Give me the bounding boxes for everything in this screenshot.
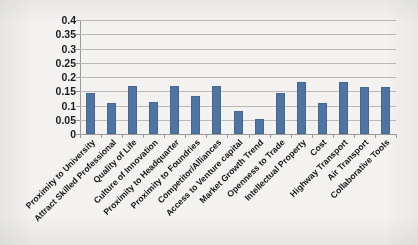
x-tick-mark bbox=[164, 134, 165, 138]
y-axis-labels: 00.050.10.150.20.250.30.350.4 bbox=[40, 20, 76, 134]
x-tick-mark bbox=[333, 134, 334, 138]
bar bbox=[339, 82, 348, 134]
x-tick-mark bbox=[354, 134, 355, 138]
bars-layer bbox=[80, 20, 396, 134]
y-tick-mark bbox=[76, 34, 80, 35]
gridline-0 bbox=[80, 134, 396, 135]
y-tick-label: 0.4 bbox=[40, 15, 76, 26]
y-tick-label: 0.3 bbox=[40, 43, 76, 54]
bar bbox=[297, 82, 306, 134]
bar bbox=[191, 96, 200, 134]
x-axis-labels: Proximity to UniversityAttract Skilled P… bbox=[0, 138, 418, 245]
x-tick-mark bbox=[270, 134, 271, 138]
y-tick-label: 0.25 bbox=[40, 58, 76, 69]
y-tick-mark bbox=[76, 91, 80, 92]
x-tick-mark bbox=[206, 134, 207, 138]
x-tick-mark bbox=[185, 134, 186, 138]
chart-screenshot: 00.050.10.150.20.250.30.350.4 Proximity … bbox=[0, 0, 418, 245]
x-tick-mark bbox=[101, 134, 102, 138]
x-tick-mark bbox=[375, 134, 376, 138]
x-tick-mark bbox=[80, 134, 81, 138]
bar bbox=[234, 111, 243, 134]
y-tick-mark bbox=[76, 120, 80, 121]
x-tick-mark bbox=[143, 134, 144, 138]
bar bbox=[107, 103, 116, 134]
y-tick-label: 0.05 bbox=[40, 115, 76, 126]
y-tick-label: 0.2 bbox=[40, 72, 76, 83]
bar bbox=[255, 119, 264, 134]
y-tick-mark bbox=[76, 49, 80, 50]
x-tick-mark bbox=[312, 134, 313, 138]
x-tick-mark bbox=[249, 134, 250, 138]
bar bbox=[149, 102, 158, 134]
bar bbox=[276, 93, 285, 134]
bar bbox=[381, 87, 390, 134]
bar bbox=[318, 103, 327, 134]
bar bbox=[212, 86, 221, 134]
x-tick-mark bbox=[396, 134, 397, 138]
y-tick-label: 0.35 bbox=[40, 29, 76, 40]
x-tick-mark bbox=[227, 134, 228, 138]
bar bbox=[128, 86, 137, 134]
bar bbox=[86, 93, 95, 134]
x-tick-mark bbox=[122, 134, 123, 138]
y-tick-mark bbox=[76, 106, 80, 107]
y-tick-mark bbox=[76, 63, 80, 64]
y-tick-label: 0.1 bbox=[40, 100, 76, 111]
x-tick-mark bbox=[291, 134, 292, 138]
bar bbox=[170, 86, 179, 134]
y-tick-mark bbox=[76, 20, 80, 21]
y-tick-label: 0.15 bbox=[40, 86, 76, 97]
bar bbox=[360, 87, 369, 134]
y-tick-mark bbox=[76, 77, 80, 78]
